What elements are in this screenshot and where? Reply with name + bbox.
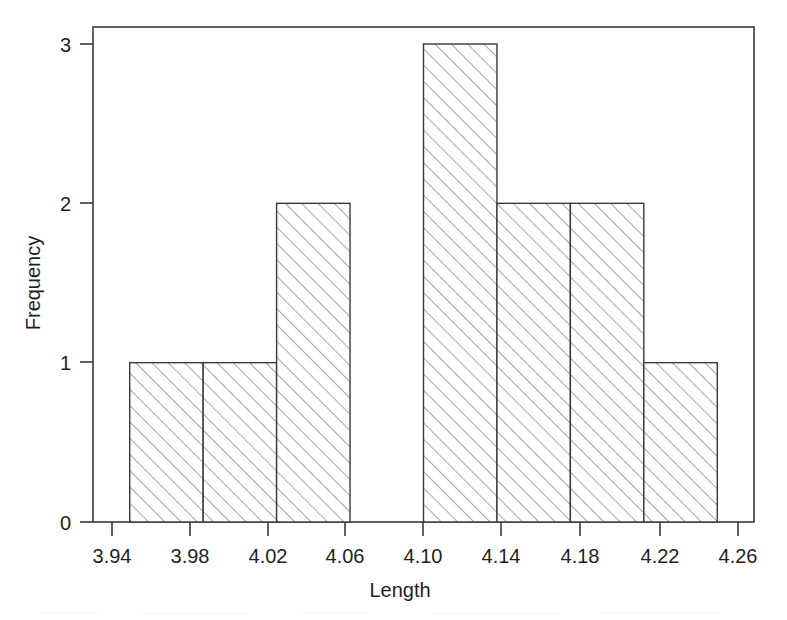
histogram-bar — [277, 203, 350, 522]
x-axis-ticks — [112, 522, 738, 536]
y-axis-ticks — [80, 44, 93, 522]
histogram-figure: 0 1 2 3 Frequency 3.94 3.98 4.02 4.06 4.… — [0, 0, 787, 620]
histogram-plot: 0 1 2 3 Frequency 3.94 3.98 4.02 4.06 4.… — [0, 0, 787, 620]
histogram-bar — [570, 203, 643, 522]
histogram-bar — [424, 44, 497, 522]
x-tick-label-2: 4.02 — [249, 545, 288, 567]
y-tick-label-0: 0 — [60, 512, 71, 534]
scan-artifact — [40, 612, 720, 614]
y-tick-label-2: 2 — [60, 193, 71, 215]
histogram-bar — [130, 363, 203, 522]
y-tick-label-3: 3 — [60, 34, 71, 56]
y-axis-tick-labels: 0 1 2 3 — [60, 34, 71, 534]
x-tick-label-8: 4.26 — [719, 545, 758, 567]
x-tick-label-6: 4.18 — [561, 545, 600, 567]
histogram-bars — [130, 44, 718, 522]
histogram-bar — [497, 203, 570, 522]
x-tick-label-3: 4.06 — [326, 545, 365, 567]
y-tick-label-1: 1 — [60, 352, 71, 374]
histogram-bar — [644, 363, 717, 522]
histogram-bar — [203, 363, 276, 522]
x-axis-tick-labels: 3.94 3.98 4.02 4.06 4.10 4.14 4.18 4.22 … — [93, 545, 758, 567]
x-tick-label-4: 4.10 — [404, 545, 443, 567]
x-tick-label-0: 3.94 — [93, 545, 132, 567]
x-tick-label-5: 4.14 — [482, 545, 521, 567]
y-axis-title: Frequency — [22, 236, 44, 331]
x-axis-title: Length — [369, 579, 430, 601]
x-tick-label-1: 3.98 — [171, 545, 210, 567]
x-tick-label-7: 4.22 — [641, 545, 680, 567]
